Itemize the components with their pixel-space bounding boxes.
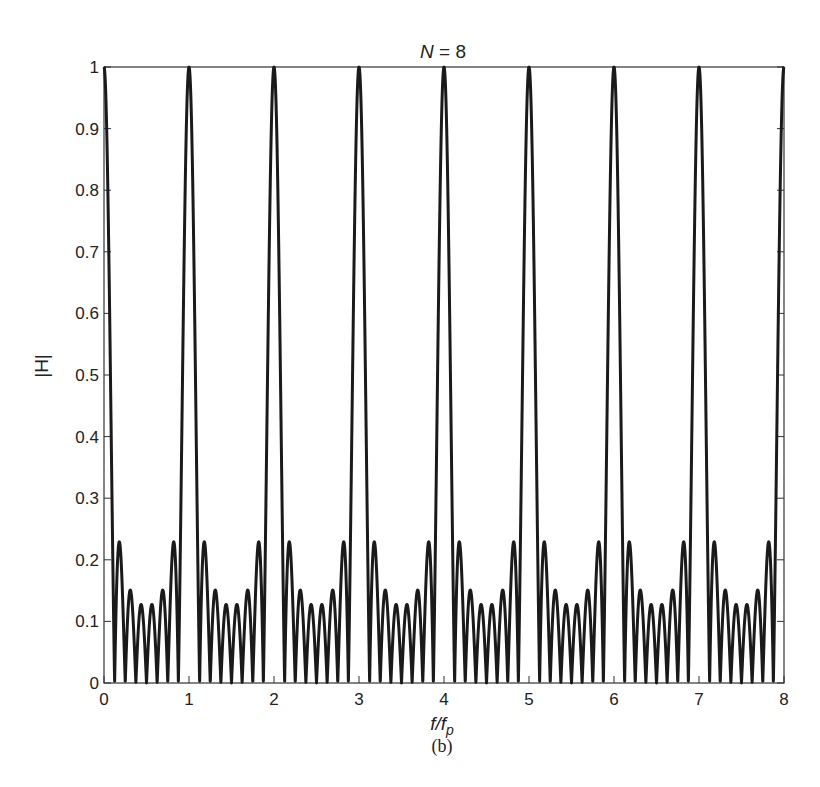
y-tick-label: 0.2 <box>75 551 99 570</box>
y-tick-label: 0 <box>90 674 99 693</box>
y-axis-label: |H| <box>31 354 52 378</box>
title-rest: = 8 <box>434 41 466 62</box>
chart-title: N = 8 <box>420 41 466 62</box>
x-tick-label: 5 <box>524 690 533 709</box>
title-var: N <box>420 41 434 62</box>
x-tick-label: 0 <box>99 690 108 709</box>
y-tick-label: 0.9 <box>75 120 99 139</box>
y-tick-label: 0.8 <box>75 181 99 200</box>
y-tick-label: 1 <box>90 58 99 77</box>
plot-area: 00.10.20.30.40.50.60.70.80.91 012345678 <box>75 58 788 709</box>
x-tick-label: 7 <box>694 690 703 709</box>
y-tick-label: 0.6 <box>75 304 99 323</box>
chart: 00.10.20.30.40.50.60.70.80.91 012345678 … <box>0 0 820 787</box>
x-tick-label: 2 <box>269 690 278 709</box>
x-tick-label: 8 <box>779 690 788 709</box>
figure-caption: (b) <box>432 736 453 757</box>
x-tick-label: 1 <box>184 690 193 709</box>
x-tick-label: 4 <box>439 690 448 709</box>
data-series-H <box>104 67 784 683</box>
x-tick-label: 3 <box>354 690 363 709</box>
y-tick-label: 0.7 <box>75 243 99 262</box>
y-tick-label: 0.3 <box>75 489 99 508</box>
x-axis-ticks: 012345678 <box>99 67 788 709</box>
y-tick-label: 0.5 <box>75 366 99 385</box>
y-tick-label: 0.1 <box>75 612 99 631</box>
x-tick-label: 6 <box>609 690 618 709</box>
x-axis-label: f/fp <box>430 713 454 738</box>
y-tick-label: 0.4 <box>75 428 99 447</box>
